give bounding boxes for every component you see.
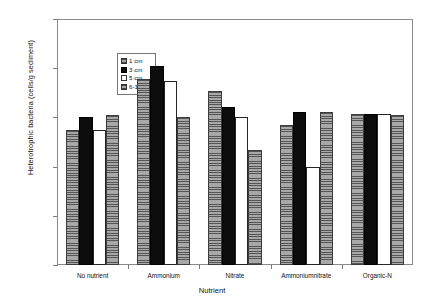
legend-item-0: 1 cm	[121, 57, 151, 66]
bar-3-4	[391, 115, 404, 265]
bar-2-4	[377, 114, 390, 265]
bar-3-0	[106, 115, 119, 265]
bar-1-2	[222, 107, 235, 265]
x-axis-title: Nutrient	[0, 286, 424, 295]
bar-0-4	[351, 114, 364, 265]
legend-item-label: 3 cm	[129, 67, 142, 73]
y-axis-title: Heterotrophic bacteria (cells/g sediment…	[26, 0, 35, 233]
bar-1-0	[79, 117, 92, 265]
bar-1-3	[293, 112, 306, 265]
bar-1-4	[364, 114, 377, 265]
bar-2-0	[93, 130, 106, 265]
x-tick-mark	[271, 265, 272, 269]
bar-0-2	[208, 91, 221, 265]
x-category-label: Ammoniumnitrate	[271, 272, 342, 279]
bar-2-1	[164, 81, 177, 265]
gray-hatched-swatch	[121, 58, 127, 64]
x-tick-mark	[128, 265, 129, 269]
bar-3-2	[248, 150, 261, 265]
x-tick-mark	[342, 265, 343, 269]
bar-0-3	[280, 125, 293, 265]
bar-chart-figure: Heterotrophic bacteria (cells/g sediment…	[0, 0, 424, 307]
gray-hatched-swatch	[121, 84, 127, 90]
x-category-label: No nutrient	[57, 272, 128, 279]
bar-2-3	[306, 167, 319, 265]
bar-3-1	[177, 117, 190, 265]
x-category-label: Organic-N	[342, 272, 413, 279]
bar-0-1	[137, 79, 150, 265]
white-outline-swatch	[121, 75, 127, 81]
legend-item-label: 1 cm	[129, 58, 142, 64]
x-tick-mark	[199, 265, 200, 269]
y-tick-mark	[53, 265, 58, 266]
bar-0-0	[66, 130, 79, 265]
plot-area: 1 cm3 cm5 cm6-10 cm A	[57, 19, 413, 265]
bar-3-3	[320, 112, 333, 265]
bar-1-1	[150, 66, 163, 265]
bar-2-2	[235, 117, 248, 265]
x-category-label: Nitrate	[199, 272, 270, 279]
black-solid-swatch	[121, 67, 127, 73]
x-category-label: Ammonium	[128, 272, 199, 279]
legend-item-1: 3 cm	[121, 66, 151, 75]
